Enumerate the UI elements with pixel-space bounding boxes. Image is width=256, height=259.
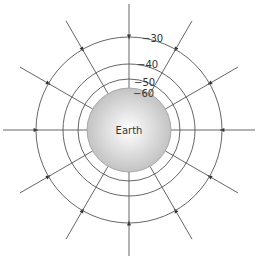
field-line <box>150 166 192 239</box>
field-line <box>66 21 108 94</box>
equipotential-labels: −30−40−50−60 <box>133 33 163 99</box>
field-line <box>66 166 108 239</box>
potential-label: −60 <box>133 88 154 99</box>
field-line <box>20 151 93 193</box>
potential-label: −50 <box>134 77 155 88</box>
field-line <box>165 151 238 193</box>
gravitational-field-diagram: Earth −30−40−50−60 <box>0 0 256 259</box>
earth-label: Earth <box>116 125 143 136</box>
field-line <box>20 67 93 109</box>
potential-label: −40 <box>137 59 158 70</box>
potential-label: −30 <box>142 33 163 44</box>
field-line <box>150 21 192 94</box>
field-line <box>165 67 238 109</box>
